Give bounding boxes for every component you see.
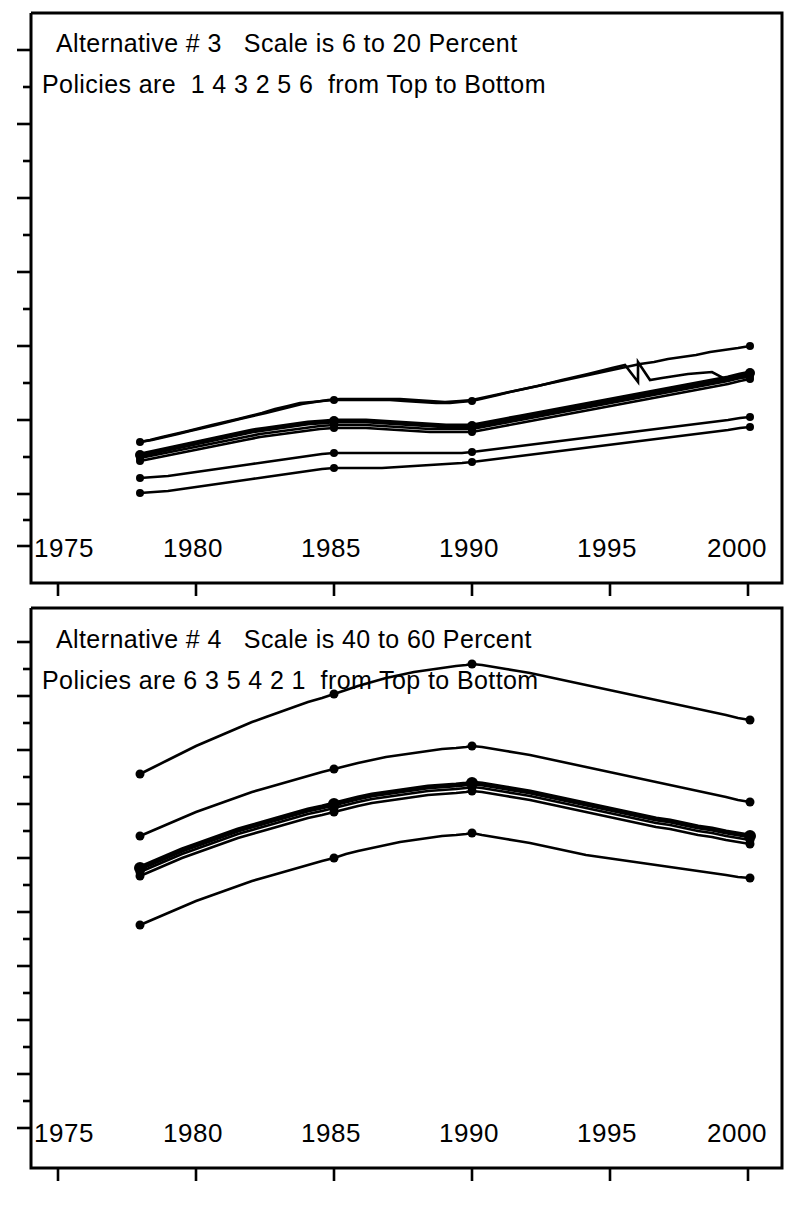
x-tick-label-1980: 1980 [163,1118,223,1148]
chart-svg-alternative-4: Alternative # 4 Scale is 40 to 60 Percen… [0,600,793,1230]
x-tick-label-1975: 1975 [34,1118,94,1148]
x-tick-label-1980: 1980 [163,533,223,563]
x-tick-label-1990: 1990 [439,1118,499,1148]
figure-page: Alternative # 3 Scale is 6 to 20 Percent… [0,0,793,1230]
x-tick-label-1990: 1990 [439,533,499,563]
data-point-markers [135,342,755,497]
x-tick-label-1985: 1985 [301,1118,361,1148]
panel-title-line-2: Policies are 6 3 5 4 2 1 from Top to Bot… [42,666,539,694]
chart-panel-alternative-3: Alternative # 3 Scale is 6 to 20 Percent… [0,0,793,600]
axis-frame [31,13,782,583]
x-tick-label-1975: 1975 [34,533,94,563]
chart-svg-alternative-3: Alternative # 3 Scale is 6 to 20 Percent… [0,0,793,600]
series-line-policy-3 [140,376,750,458]
x-axis-ticks [58,1168,748,1181]
y-axis-ticks [17,50,31,546]
x-tick-label-1995: 1995 [577,533,637,563]
x-tick-label-1995: 1995 [577,1118,637,1148]
x-axis-labels: 1975 1980 1985 1990 1995 2000 [34,533,767,563]
panel-title-line-1: Alternative # 4 Scale is 40 to 60 Percen… [56,625,532,653]
x-tick-label-2000: 2000 [707,1118,767,1148]
panel-title-line-1: Alternative # 3 Scale is 6 to 20 Percent [56,29,518,57]
chart-panel-alternative-4: Alternative # 4 Scale is 40 to 60 Percen… [0,600,793,1230]
x-tick-label-1985: 1985 [301,533,361,563]
panel-title-line-2: Policies are 1 4 3 2 5 6 from Top to Bot… [42,70,546,98]
x-axis-labels: 1975 1980 1985 1990 1995 2000 [34,1118,767,1148]
x-axis-ticks [58,583,748,596]
y-axis-ticks [17,642,31,1128]
series-line-policy-5 [140,783,750,868]
x-tick-label-2000: 2000 [707,533,767,563]
series-line-policy-1 [140,833,750,925]
